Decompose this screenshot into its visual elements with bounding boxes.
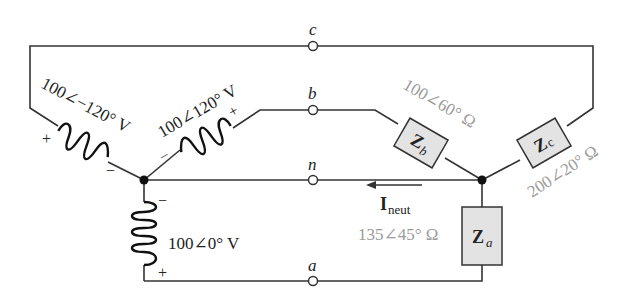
arrow-left-icon <box>366 181 376 189</box>
label-b: b <box>308 84 317 103</box>
source-va-plus: + <box>158 264 167 281</box>
neutral-current-name: I <box>380 194 387 214</box>
wire-zc-node <box>482 160 520 180</box>
source-vc-coil <box>53 120 114 167</box>
right-node <box>478 176 487 185</box>
source-va-label: 100∠0° V <box>168 234 240 253</box>
load-za-sub: a <box>486 235 493 250</box>
source-va-coil <box>132 202 156 265</box>
circuit-diagram: c b n a 100∠0° V − + 100∠−120° V + − 100… <box>0 0 636 302</box>
terminal-b <box>309 106 318 115</box>
source-vb-plus: + <box>225 101 241 120</box>
load-za-name: Z <box>472 227 484 247</box>
neutral-current-sub: neut <box>388 202 411 217</box>
load-za: Z a <box>462 207 502 265</box>
source-vc-plus: + <box>42 130 51 147</box>
label-a: a <box>308 256 317 275</box>
neutral-current-arrow <box>366 181 422 189</box>
wire-zb-node <box>445 158 482 180</box>
terminal-n <box>309 176 318 185</box>
left-node <box>140 176 149 185</box>
load-zb: Z b <box>394 118 448 168</box>
label-n: n <box>308 155 317 174</box>
source-vc-label: 100∠−120° V <box>38 74 134 137</box>
label-c: c <box>309 20 317 39</box>
source-va-minus: − <box>158 192 167 209</box>
source-vc-minus: − <box>106 162 115 179</box>
terminal-c <box>309 42 318 51</box>
load-za-value: 135∠45° Ω <box>358 225 438 244</box>
terminal-a <box>309 277 318 286</box>
source-vb-minus: − <box>156 146 172 165</box>
